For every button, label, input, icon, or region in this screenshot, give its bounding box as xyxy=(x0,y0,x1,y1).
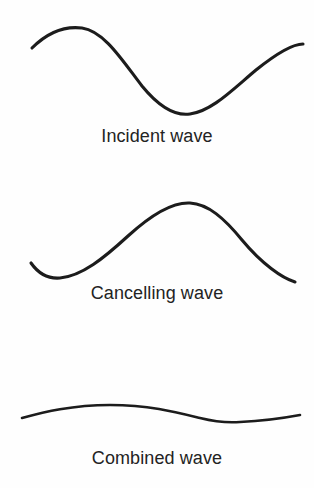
incident-wave-label: Incident wave xyxy=(0,126,314,147)
wave-interference-diagram xyxy=(0,0,314,488)
combined-wave-label: Combined wave xyxy=(0,448,314,469)
cancelling-wave-label: Cancelling wave xyxy=(0,283,314,304)
diagram-background xyxy=(0,0,314,488)
